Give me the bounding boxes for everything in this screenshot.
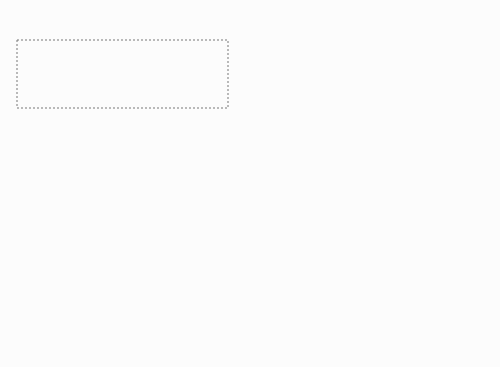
assessment-frame-outline [17,40,228,108]
assessment-container [17,40,229,108]
assessment-box-frame [17,40,229,108]
assessment-frame [17,40,228,108]
assessment-dotted-border [17,40,228,108]
assessment-outline [17,40,229,108]
assessment-group-frame-full [17,40,229,108]
assessment-dotted-frame [17,40,228,108]
assessment-group-frame [17,40,228,108]
assessment-frame-main [17,40,229,108]
assessment-region [17,40,229,108]
assessment-frame-rect [17,40,228,108]
assessment-section [17,40,228,108]
assessment-border [17,40,229,108]
diagram-canvas [0,0,500,367]
